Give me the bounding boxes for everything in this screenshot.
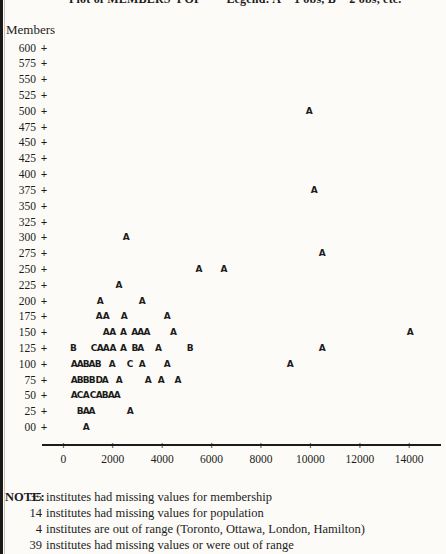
data-point-B: B [185,343,195,353]
data-point-A: A [309,185,319,195]
note-line: 4institutes are out of range (Toronto, O… [27,522,365,537]
data-point-A: A [194,264,204,274]
y-axis-tick-label: 275 [6,247,36,259]
y-axis-tick: + [38,310,50,322]
y-axis-tick: + [38,263,50,275]
y-axis-tick-label: 575 [6,57,36,69]
data-point-A: A [95,296,105,306]
note-line-text: institutes are out of range (Toronto, Ot… [46,522,365,536]
y-axis-tick: + [38,295,50,307]
x-axis-tick-label: 2000 [91,453,135,465]
data-point-A: A [168,327,178,337]
note-line-text: institutes had missing values for popula… [46,506,264,520]
y-axis-tick-label: 450 [6,136,36,148]
y-axis-tick: + [38,73,50,85]
note-line-count: 14 [27,506,42,521]
y-axis-tick: + [38,57,50,69]
data-point-A: A [107,327,117,337]
y-axis-tick: + [38,247,50,259]
data-point-A: A [118,343,128,353]
y-axis-tick-label: 200 [6,295,36,307]
y-axis-tick-label: 25 [6,405,36,417]
x-axis-tick-label: 14000 [387,453,431,465]
data-point-A: A [219,264,229,274]
data-point-A: A [87,406,97,416]
y-axis-tick-label: 00 [6,421,36,433]
note-line-text: institutes had missing values or were ou… [46,538,294,552]
y-axis-tick: + [38,152,50,164]
y-axis-tick: + [38,231,50,243]
data-point-A: A [137,296,147,306]
data-point-A: A [114,375,124,385]
y-axis-tick-label: 600 [6,42,36,54]
x-axis-tick-label: 0 [41,453,85,465]
data-point-A: A [156,375,166,385]
note-line: 39institutes had missing values or were … [27,538,294,553]
x-axis-tick-label: 8000 [239,453,283,465]
y-axis-tick: + [38,168,50,180]
note-line: 14institutes had missing values for popu… [27,506,264,521]
y-axis-tick: + [38,216,50,228]
data-point-C: C [125,359,135,369]
data-point-A: A [107,359,117,369]
y-axis-tick: + [38,342,50,354]
y-axis-tick-label: 425 [6,152,36,164]
y-axis-tick-label: 150 [6,326,36,338]
scatter-plot: 600+575+550+525+500+475+450+425+400+375+… [0,0,446,554]
y-axis-tick-label: 175 [6,310,36,322]
x-axis-tick-label: 10000 [288,453,332,465]
x-axis-tick-label: 12000 [338,453,382,465]
note-line-count: 39 [27,538,42,553]
y-axis-tick: + [38,136,50,148]
note-line-count: 4 [27,522,42,537]
data-point-A: A [118,327,128,337]
y-axis-tick: + [38,421,50,433]
note-line-text: institutes had missing values for member… [46,490,272,504]
y-axis-tick: + [38,200,50,212]
y-axis-tick: + [38,405,50,417]
note-line-count: 35 [27,490,42,505]
y-axis-tick: + [38,184,50,196]
y-axis-tick: + [38,121,50,133]
y-axis-tick-label: 125 [6,342,36,354]
y-axis-tick: + [38,105,50,117]
data-point-A: A [162,359,172,369]
y-axis-tick-label: 375 [6,184,36,196]
y-axis-tick-label: 350 [6,200,36,212]
x-axis-tick-label: 4000 [140,453,184,465]
y-axis-tick-label: 100 [6,358,36,370]
y-axis-tick-label: 300 [6,231,36,243]
data-point-A: A [100,375,110,385]
data-point-A: A [125,406,135,416]
y-axis-tick: + [38,279,50,291]
data-point-A: A [81,422,91,432]
y-axis-tick-label: 550 [6,73,36,85]
y-axis-tick: + [38,42,50,54]
data-point-A: A [405,327,415,337]
note-line: 35institutes had missing values for memb… [27,490,272,505]
data-point-A: A [108,343,118,353]
y-axis-tick-label: 325 [6,216,36,228]
data-point-A: A [136,343,146,353]
data-point-A: A [162,311,172,321]
data-point-A: A [143,375,153,385]
y-axis-tick-label: 500 [6,105,36,117]
x-axis-line [42,444,441,446]
data-point-B: B [93,359,103,369]
data-point-A: A [114,280,124,290]
data-point-A: A [153,343,163,353]
data-point-A: A [304,106,314,116]
data-point-B: B [68,343,78,353]
x-axis-tick-label: 6000 [190,453,234,465]
y-axis-tick: + [38,89,50,101]
y-axis-tick-label: 400 [6,168,36,180]
data-point-A: A [142,327,152,337]
data-point-A: A [173,375,183,385]
y-axis-tick-label: 250 [6,263,36,275]
data-point-A: A [121,232,131,242]
y-axis-tick-label: 225 [6,279,36,291]
y-axis-tick: + [38,374,50,386]
data-point-A: A [137,359,147,369]
data-point-A: A [285,359,295,369]
y-axis-tick-label: 50 [6,389,36,401]
